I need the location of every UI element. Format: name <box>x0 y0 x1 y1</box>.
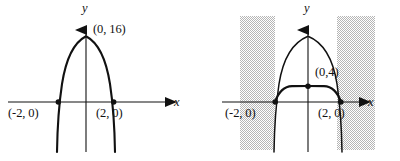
root-point-right-negative <box>272 99 278 105</box>
y-axis-label-right: y <box>304 2 310 15</box>
right-root-label-right: (2, 0) <box>318 107 344 120</box>
vertex-point-right <box>305 83 311 89</box>
x-axis-label-left: x <box>174 96 180 109</box>
root-point-right-positive <box>338 99 344 105</box>
math-graph-figure: y x (0, 16) (-2, 0) (2, 0) <box>0 0 400 161</box>
root-point-left-positive <box>111 99 116 104</box>
root-point-left-negative <box>56 99 61 104</box>
left-root-label-left: (-2, 0) <box>8 107 39 120</box>
left-root-label-right: (-2, 0) <box>225 107 256 120</box>
graph-canvas-right <box>200 0 400 161</box>
graph-panel-right: y x (0,4) (-2, 0) (2, 0) <box>200 0 400 161</box>
right-root-label-left: (2, 0) <box>96 107 122 120</box>
y-axis-label-left: y <box>82 2 88 15</box>
vertex-label-right: (0,4) <box>315 66 338 79</box>
shaded-band-right <box>337 16 375 150</box>
x-axis-label-right: x <box>368 96 374 109</box>
shaded-band-left <box>240 16 275 150</box>
vertex-label-left: (0, 16) <box>93 23 126 36</box>
graph-panel-left: y x (0, 16) (-2, 0) (2, 0) <box>0 0 200 161</box>
